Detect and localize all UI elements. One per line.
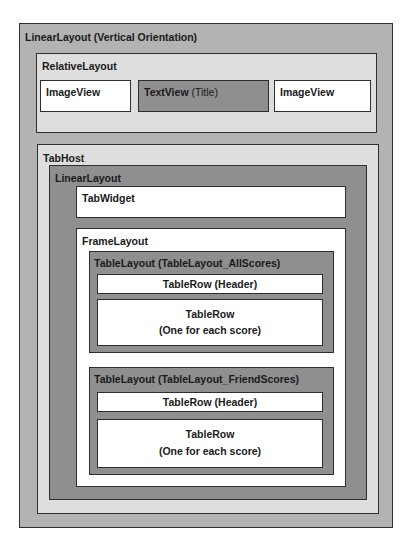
- text-view-name: TextView: [144, 86, 189, 98]
- image-view-right: ImageView: [274, 80, 371, 112]
- image-view-right-label: ImageView: [280, 86, 334, 98]
- tab-widget: TabWidget: [76, 186, 346, 218]
- image-view-left: ImageView: [40, 80, 131, 112]
- root-linear-layout-label: LinearLayout (Vertical Orientation): [25, 31, 197, 43]
- table-row-body-all-line1: TableRow: [98, 308, 322, 320]
- table-row-body-friend: TableRow (One for each score): [97, 419, 323, 468]
- table-layout-all-scores-label: TableLayout (TableLayout_AllScores): [94, 257, 280, 269]
- image-view-left-label: ImageView: [46, 86, 100, 98]
- table-layout-friend-scores-label: TableLayout (TableLayout_FriendScores): [94, 373, 299, 385]
- text-view-title: TextView (Title): [138, 80, 269, 112]
- tab-widget-label: TabWidget: [82, 192, 135, 204]
- table-row-body-friend-line2: (One for each score): [98, 445, 322, 457]
- table-row-body-friend-line1: TableRow: [98, 428, 322, 440]
- text-view-suffix: (Title): [191, 86, 217, 98]
- table-row-header-friend-label: TableRow (Header): [98, 396, 322, 408]
- table-row-header-friend: TableRow (Header): [97, 392, 323, 412]
- table-row-body-all: TableRow (One for each score): [97, 299, 323, 346]
- table-row-body-all-line2: (One for each score): [98, 324, 322, 336]
- text-view-label: TextView (Title): [144, 86, 218, 98]
- frame-layout-label: FrameLayout: [82, 235, 148, 247]
- inner-linear-layout-label: LinearLayout: [55, 172, 121, 184]
- tab-host-label: TabHost: [43, 152, 84, 164]
- table-row-header-all-label: TableRow (Header): [98, 278, 322, 290]
- table-row-header-all: TableRow (Header): [97, 274, 323, 294]
- relative-layout-label: RelativeLayout: [42, 60, 117, 72]
